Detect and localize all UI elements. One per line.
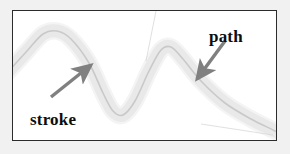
path-label: path xyxy=(209,28,243,45)
stroke-arrow xyxy=(51,65,91,97)
diagram-figure: stroke path xyxy=(0,0,290,154)
stroke-label: stroke xyxy=(30,111,76,128)
figure-frame: stroke path xyxy=(12,10,277,141)
path-arrow xyxy=(197,41,225,79)
